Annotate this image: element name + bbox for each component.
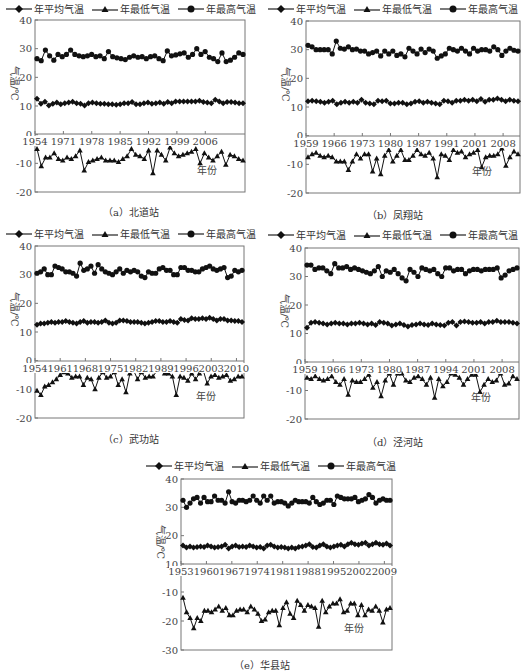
x-tick-label: 2002 [346, 566, 371, 577]
chart-b: 气温/℃403020100-10-20195919661973198019871… [263, 0, 527, 225]
series-diamond [305, 95, 521, 107]
y-tick-label: 40 [165, 474, 178, 485]
x-tick-label: 1959 [293, 138, 318, 149]
y-tick-label: 30 [290, 44, 303, 55]
x-axis-label: 年份 [197, 164, 217, 176]
series-circle [305, 38, 520, 60]
x-tick-label: 2003 [199, 363, 224, 374]
y-tick-label: -10 [162, 587, 178, 598]
y-tick-label: 20 [290, 73, 303, 84]
y-tick-label: -10 [16, 384, 32, 395]
x-tick-label: 1954 [22, 363, 47, 374]
x-tick-label: 1967 [219, 566, 244, 577]
chart-a: 气温/℃403020100-10-20195419711978198519921… [0, 0, 265, 225]
caption-e: （e）华县站 [234, 657, 290, 671]
y-tick-label: -20 [286, 414, 302, 425]
caption-c: （c）武功站 [103, 431, 159, 446]
caption-b: （b）凤翔站 [367, 207, 423, 222]
x-tick-label: 1989 [148, 363, 173, 374]
x-tick-label: 2008 [489, 364, 514, 375]
x-tick-label: 1974 [245, 566, 270, 577]
series-circle [180, 489, 392, 510]
y-tick-label: 20 [289, 300, 302, 311]
x-tick-label: 1996 [173, 363, 198, 374]
x-tick-label: 1973 [349, 364, 374, 375]
x-tick-label: 2010 [224, 363, 249, 374]
y-tick-label: 10 [19, 327, 32, 338]
y-tick-label: 30 [289, 271, 302, 282]
x-tick-label: 1982 [123, 363, 148, 374]
x-tick-label: 1991 [434, 138, 459, 149]
y-tick-label: -10 [16, 158, 32, 169]
x-tick-label: 2001 [462, 138, 487, 149]
y-tick-label: -20 [16, 187, 32, 198]
x-tick-label: 1966 [321, 138, 346, 149]
x-axis-label: 年份 [471, 391, 491, 403]
series-diamond [304, 318, 520, 331]
y-tick-label: -10 [286, 385, 302, 396]
x-tick-label: 2006 [193, 136, 218, 147]
y-tick-label: 10 [290, 102, 303, 113]
y-tick-label: -30 [162, 645, 178, 656]
x-axis-label: 年份 [196, 390, 216, 402]
caption-a: （a）北道站 [103, 204, 159, 219]
series-circle [304, 261, 519, 283]
x-tick-label: 1978 [79, 136, 104, 147]
x-tick-label: 1985 [107, 136, 132, 147]
x-tick-label: 1973 [350, 138, 375, 149]
x-tick-label: 1980 [378, 138, 403, 149]
chart-e: 气温/℃40302010-10-20-301953196019671974198… [130, 455, 400, 671]
x-tick-label: 1992 [136, 136, 161, 147]
y-tick-label: 10 [289, 328, 302, 339]
x-tick-label: 1953 [168, 566, 193, 577]
y-tick-label: -20 [287, 188, 303, 199]
y-tick-label: 20 [165, 530, 178, 541]
x-tick-label: 1987 [406, 138, 431, 149]
y-tick-label: 40 [19, 241, 32, 252]
x-tick-label: 1954 [22, 136, 47, 147]
series-diamond [180, 540, 393, 552]
y-tick-label: -10 [287, 159, 303, 170]
y-tick-label: 20 [19, 298, 32, 309]
x-tick-label: 1987 [405, 364, 430, 375]
x-axis-label: 年份 [344, 622, 364, 634]
caption-d: （d）泾河站 [367, 434, 423, 449]
x-tick-label: 1999 [164, 136, 189, 147]
series-diamond [34, 315, 245, 328]
x-tick-label: 2001 [461, 364, 486, 375]
series-circle [34, 261, 244, 281]
y-tick-label: 40 [289, 243, 302, 254]
x-tick-label: 1980 [377, 364, 402, 375]
x-tick-label: 2009 [372, 566, 397, 577]
x-tick-label: 1971 [51, 136, 76, 147]
x-tick-label: 1959 [292, 364, 317, 375]
x-tick-label: 1995 [321, 566, 346, 577]
y-tick-label: 20 [19, 72, 32, 83]
x-tick-label: 1975 [98, 363, 123, 374]
y-tick-label: 30 [19, 269, 32, 280]
y-tick-label: 30 [19, 43, 32, 54]
x-tick-label: 1960 [194, 566, 219, 577]
y-tick-label: -20 [16, 413, 32, 424]
x-tick-label: 1961 [47, 363, 72, 374]
y-tick-label: 40 [290, 16, 303, 27]
x-axis-label: 年份 [472, 165, 492, 177]
y-tick-label: 40 [19, 15, 32, 26]
series-circle [34, 46, 245, 64]
x-tick-label: 1981 [270, 566, 295, 577]
y-tick-label: -20 [162, 616, 178, 627]
x-tick-label: 1988 [295, 566, 320, 577]
y-tick-label: 30 [165, 502, 178, 513]
x-tick-label: 1966 [320, 364, 345, 375]
series-diamond [34, 96, 246, 109]
x-tick-label: 2008 [490, 138, 515, 149]
chart-d: 气温/℃403020100-10-20195919661973198019871… [263, 225, 527, 450]
y-tick-label: 10 [19, 101, 32, 112]
x-tick-label: 1994 [433, 364, 458, 375]
x-tick-label: 1968 [73, 363, 98, 374]
chart-c: 气温/℃403020100-10-20195419611968197519821… [0, 225, 265, 450]
